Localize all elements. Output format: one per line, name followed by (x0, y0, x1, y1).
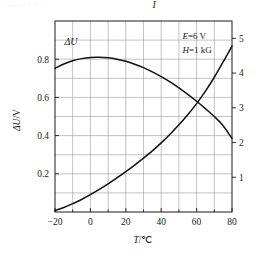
y-ticklabel: 0.4 (37, 131, 49, 141)
y-axis-title: ΔU/V (12, 109, 22, 132)
y-axis-ticklabels: 0.20.40.60.8 (37, 55, 49, 180)
y2-ticklabel: 2 (239, 138, 244, 148)
x-axis-ticklabels: −20020406080 (48, 217, 237, 227)
x-ticklabel: 80 (227, 217, 237, 227)
x-ticklabel: 0 (88, 217, 93, 227)
x-ticklabel: 40 (156, 217, 166, 227)
x-axis-title: T/℃ (134, 235, 153, 245)
x-ticklabel: −20 (48, 217, 63, 227)
y2-axis-ticks (232, 38, 236, 177)
y-ticklabel: 0.8 (37, 55, 49, 65)
y2-ticklabel: 3 (239, 103, 244, 113)
chart-figure: −20020406080 0.20.40.60.8 12345 E=6 VH=1… (0, 0, 265, 265)
y-ticklabel: 0.6 (37, 93, 49, 103)
annotation-field-strength-E: E=6 V (181, 31, 206, 41)
y-ticklabel: 0.2 (37, 169, 49, 179)
y2-ticklabel: 5 (239, 34, 244, 44)
curve-label-current: I (151, 0, 156, 10)
curve-label-delta-u: ΔU (63, 36, 78, 47)
plot-area: −20020406080 0.20.40.60.8 12345 E=6 VH=1… (37, 0, 244, 227)
x-ticklabel: 20 (121, 217, 131, 227)
x-ticklabel: 60 (192, 217, 202, 227)
annotation-magnetic-field-H: H=1 kG (181, 45, 212, 55)
y2-ticklabel: 4 (239, 68, 244, 78)
y2-axis-ticklabels: 12345 (239, 34, 244, 183)
y2-ticklabel: 1 (239, 173, 244, 183)
